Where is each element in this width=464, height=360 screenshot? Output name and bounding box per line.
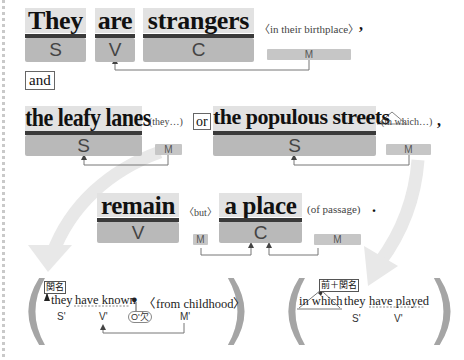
role-m-prime-left: M' — [180, 311, 190, 322]
word-a-place: a place — [219, 193, 302, 217]
role-s-prime-right: S' — [352, 313, 361, 324]
period: . — [372, 198, 376, 216]
word-the-leafy-lanes: the leafy lanes — [25, 106, 142, 134]
conjunction-or: or — [193, 113, 211, 130]
paren-close-right: ) — [428, 272, 457, 346]
clause-right-have-played: have played — [369, 294, 429, 309]
role-s-2b: S — [213, 135, 376, 156]
paren-open-right: ( — [282, 272, 311, 346]
role-c: C — [143, 38, 254, 62]
role-m-3a: M — [193, 234, 208, 245]
curved-arrow-right — [380, 160, 418, 262]
word-are: are — [95, 8, 135, 33]
role-v-prime-right: V' — [394, 313, 403, 324]
clause-left-gap-dot: ● — [131, 293, 138, 305]
conjunction-and: and — [25, 71, 55, 90]
role-m-2b: M — [386, 144, 431, 155]
tag-prep-relative-right: 前＋関名 — [319, 279, 359, 292]
word-strangers: strangers — [143, 8, 254, 33]
clause-left-from-childhood: 〈from childhood〉 — [143, 293, 246, 312]
clause-right-they: they — [344, 294, 366, 309]
clause-left-they: they — [51, 293, 73, 308]
comma-1: , — [359, 16, 363, 34]
role-s-prime-left: S' — [57, 311, 66, 322]
modifier-in-their-birthplace: 〈in their birthplace〉 — [259, 20, 359, 36]
comma-2: , — [437, 112, 441, 130]
role-v-prime-left: V' — [99, 311, 108, 322]
word-they: They — [25, 8, 86, 33]
role-v-3: V — [97, 222, 179, 243]
modifier-in-which: (in which…) — [381, 116, 432, 127]
clause-left-have-known: have known — [75, 293, 136, 308]
modifier-of-passage: (of passage) — [307, 203, 360, 215]
role-m-2a: M — [155, 144, 182, 155]
role-o-gap-left: O'欠 — [128, 311, 152, 323]
modifier-they: (they…) — [149, 116, 183, 127]
clause-right-in-which: in which — [299, 294, 342, 309]
word-the-populous-streets: the populous streets — [213, 106, 376, 131]
word-remain: remain — [97, 193, 179, 217]
role-c-3: C — [219, 222, 302, 243]
role-m-3b: M — [314, 234, 361, 245]
role-v: V — [95, 38, 135, 62]
role-s: S — [25, 38, 86, 62]
modifier-but: 〈but〉 — [184, 204, 217, 219]
role-s-2a: S — [25, 135, 142, 156]
role-m-1: M — [267, 49, 351, 60]
